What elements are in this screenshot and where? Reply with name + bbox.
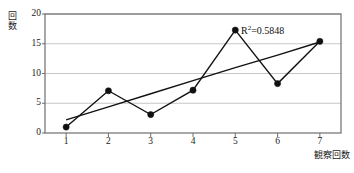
data-point-marker bbox=[105, 88, 111, 94]
data-point-marker bbox=[274, 81, 280, 87]
plot-area bbox=[0, 0, 354, 173]
r-squared-prefix: R bbox=[241, 25, 248, 36]
r-squared-annotation: R2=0.5848 bbox=[241, 25, 284, 36]
data-point-marker bbox=[232, 27, 238, 33]
data-line bbox=[66, 30, 320, 127]
data-point-marker bbox=[317, 38, 323, 44]
trendline bbox=[66, 42, 320, 120]
data-point-marker bbox=[63, 124, 69, 130]
x-axis-title: 観察回数 bbox=[314, 150, 350, 161]
r-squared-value: =0.5848 bbox=[251, 25, 284, 36]
chart-container: 回 数 05101520 1234567 R2=0.5848 観察回数 bbox=[0, 0, 354, 173]
data-point-marker bbox=[148, 111, 154, 117]
data-point-marker bbox=[190, 87, 196, 93]
